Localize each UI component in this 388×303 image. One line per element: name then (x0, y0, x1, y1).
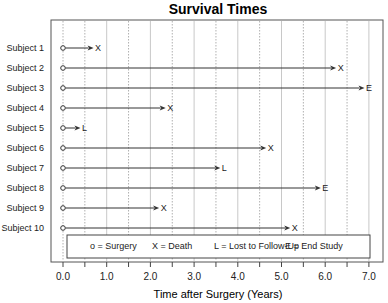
subject-label: Subject 6 (6, 143, 44, 153)
x-axis-label: Time after Surgery (Years) (154, 288, 283, 300)
subject-label: Subject 1 (6, 43, 44, 53)
legend-item: o = Surgery (90, 241, 137, 251)
subject-row: Subject 6X (6, 143, 273, 153)
subject-row: Subject 4X (6, 103, 173, 113)
subject-row: Subject 9X (6, 203, 166, 213)
subject-row: Subject 5L (6, 123, 87, 133)
outcome-marker: X (268, 143, 274, 153)
gridlines (63, 21, 369, 261)
outcome-marker: E (366, 83, 372, 93)
outcome-marker: X (95, 43, 101, 53)
outcome-marker: X (292, 223, 298, 233)
chart-title: Survival Times (169, 1, 268, 17)
outcome-marker: L (82, 123, 87, 133)
x-tick-label: 6.0 (318, 271, 332, 282)
subject-row: Subject 1X (6, 43, 101, 53)
surgery-marker-icon (61, 206, 66, 211)
x-tick-label: 4.0 (231, 271, 245, 282)
subject-label: Subject 3 (6, 83, 44, 93)
surgery-marker-icon (61, 126, 66, 131)
outcome-marker: X (167, 103, 173, 113)
outcome-marker: L (222, 163, 227, 173)
outcome-marker: E (322, 183, 328, 193)
surgery-marker-icon (61, 106, 66, 111)
surgery-marker-icon (61, 86, 66, 91)
subject-label: Subject 5 (6, 123, 44, 133)
subject-label: Subject 7 (6, 163, 44, 173)
surgery-marker-icon (61, 146, 66, 151)
subject-row: Subject 10X (1, 223, 297, 233)
x-tick-label: 7.0 (362, 271, 376, 282)
survival-times-chart: Survival Times Subject 1XSubject 2XSubje… (0, 0, 388, 303)
x-tick-label: 5.0 (275, 271, 289, 282)
subject-rows: Subject 1XSubject 2XSubject 3ESubject 4X… (1, 43, 372, 233)
x-tick-label: 0.0 (56, 271, 70, 282)
subject-label: Subject 2 (6, 63, 44, 73)
surgery-marker-icon (61, 226, 66, 231)
x-tick-label: 2.0 (143, 271, 157, 282)
surgery-marker-icon (61, 166, 66, 171)
subject-row: Subject 2X (6, 63, 343, 73)
plot-frame (51, 20, 383, 262)
subject-label: Subject 4 (6, 103, 44, 113)
x-axis: 0.01.02.03.04.05.06.07.0 (56, 262, 376, 282)
surgery-marker-icon (61, 46, 66, 51)
legend: o = SurgeryX = DeathL = Lost to Follow-U… (67, 235, 370, 258)
outcome-marker: X (161, 203, 167, 213)
subject-row: Subject 3E (6, 83, 372, 93)
subject-label: Subject 8 (6, 183, 44, 193)
x-tick-label: 3.0 (187, 271, 201, 282)
subject-label: Subject 10 (1, 223, 44, 233)
surgery-marker-icon (61, 66, 66, 71)
subject-row: Subject 8E (6, 183, 328, 193)
surgery-marker-icon (61, 186, 66, 191)
legend-item: E = End Study (285, 241, 343, 251)
legend-item: X = Death (152, 241, 192, 251)
x-tick-label: 1.0 (100, 271, 114, 282)
subject-label: Subject 9 (6, 203, 44, 213)
outcome-marker: X (338, 63, 344, 73)
